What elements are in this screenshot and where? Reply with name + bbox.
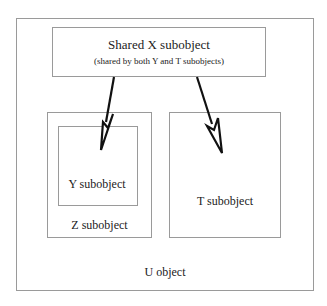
arrow-to-y <box>101 77 114 150</box>
arrows-layer <box>0 0 327 306</box>
arrow-to-t <box>197 77 222 153</box>
